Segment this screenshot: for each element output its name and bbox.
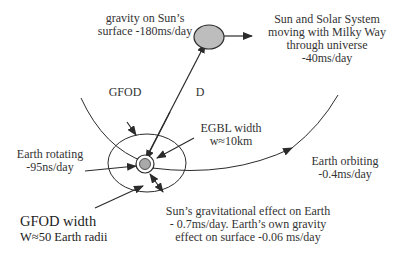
gfod-width-label: GFOD width W≈50 Earth radii [20, 213, 107, 245]
earth-orbiting-label: Earth orbiting -0.4ms/day [305, 155, 385, 181]
gfod-width-line2: W≈50 Earth radii [20, 230, 107, 245]
sun-effect-label: Sun’s gravitational effect on Earth - 0.… [160, 205, 336, 244]
egbl-line2: w≈10km [196, 135, 266, 148]
sun-gravity-line2: surface -180ms/day [90, 25, 200, 38]
distance-line-earth-end [146, 112, 170, 159]
solar-motion-line4: -40ms/day [262, 52, 392, 65]
earth-rotating-label: Earth rotating -95ns/day [12, 148, 88, 174]
earth-rotating-line2: -95ns/day [12, 161, 88, 174]
gfod-arrow [127, 122, 136, 135]
earth-icon [140, 159, 151, 170]
gfod-width-line1: GFOD width [20, 213, 107, 230]
earth-orbit-arc [152, 148, 292, 171]
earth-orbiting-line2: -0.4ms/day [305, 168, 385, 181]
sun-gravity-label: gravity on Sun’s surface -180ms/day [90, 12, 200, 38]
solar-system-motion-label: Sun and Solar System moving with Milky W… [262, 13, 392, 65]
gfod-width-arrow [95, 186, 143, 208]
sun-effect-line3: effect on surface -0.06 ms/day [160, 231, 336, 244]
gfod-span-arrow [150, 174, 163, 192]
egbl-width-label: EGBL width w≈10km [196, 122, 266, 148]
left-arc [81, 98, 145, 162]
gfod-label: GFOD [105, 86, 145, 99]
egbl-arrow [157, 138, 194, 158]
earth-rotating-arrow [85, 166, 136, 171]
distance-label: D [193, 86, 207, 99]
earth-orbit-arc-continuation [292, 95, 338, 148]
